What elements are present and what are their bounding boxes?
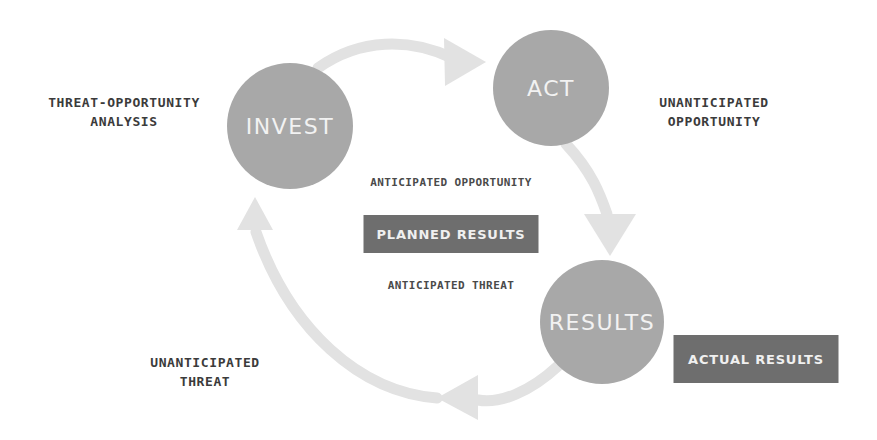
result-box-actual-results[interactable]: ACTUAL RESULTS bbox=[674, 335, 839, 383]
arrow-shaft bbox=[318, 44, 452, 68]
arrow-invest-to-act bbox=[318, 38, 486, 86]
arrow-results-to-invest bbox=[437, 366, 558, 420]
center-label-anticipated-opportunity: ANTICIPATED OPPORTUNITY bbox=[370, 176, 532, 189]
arrow-head-icon bbox=[584, 214, 636, 256]
center-label-anticipated-threat: ANTICIPATED THREAT bbox=[388, 279, 514, 292]
arrow-act-to-results bbox=[566, 144, 636, 256]
arrow-head-icon bbox=[437, 375, 478, 420]
node-circle-invest[interactable] bbox=[227, 63, 353, 189]
node-circle-results[interactable] bbox=[540, 260, 664, 384]
arrow-head-icon bbox=[237, 197, 273, 230]
outer-label-unanticipated-opportunity: UNANTICIPATED OPPORTUNITY bbox=[659, 93, 769, 131]
arrow-head-icon bbox=[444, 38, 486, 86]
arrow-shaft bbox=[256, 232, 437, 398]
cycle-diagram-canvas: INVESTACTRESULTS THREAT-OPPORTUNITY ANAL… bbox=[0, 0, 877, 440]
node-circle-act[interactable] bbox=[493, 30, 609, 146]
arrow-shaft bbox=[566, 144, 607, 214]
outer-label-unanticipated-threat: UNANTICIPATED THREAT bbox=[150, 353, 260, 391]
outer-label-threat-opportunity-analysis: THREAT-OPPORTUNITY ANALYSIS bbox=[48, 93, 200, 131]
arrow-shaft bbox=[478, 366, 558, 401]
result-box-planned-results[interactable]: PLANNED RESULTS bbox=[364, 215, 539, 253]
